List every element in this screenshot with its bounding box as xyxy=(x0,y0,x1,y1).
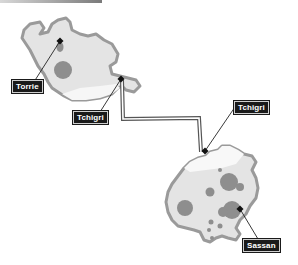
label-tchigri-east: Tchigri xyxy=(234,101,269,114)
label-torrie: Torrie xyxy=(12,80,43,93)
crater-ne xyxy=(220,173,238,191)
map-canvas xyxy=(0,0,298,265)
crater-large xyxy=(54,61,72,79)
label-sassan: Sassan xyxy=(243,239,280,252)
southeast-island xyxy=(166,146,258,242)
crater-west xyxy=(177,200,193,216)
label-tchigri-west: Tchigri xyxy=(73,111,108,124)
crater-center xyxy=(206,188,215,197)
